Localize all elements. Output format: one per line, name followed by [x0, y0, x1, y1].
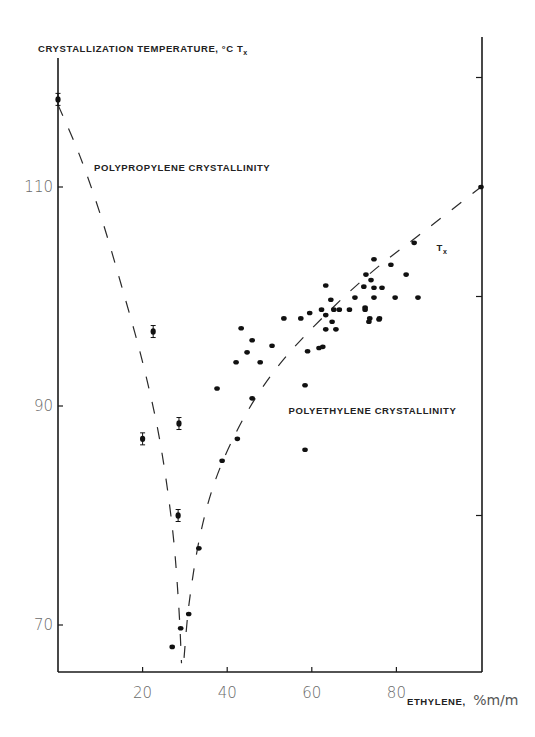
- x-axis-title-text: ETHYLENE,: [407, 696, 466, 707]
- y-axis-title: CRYSTALLIZATION TEMPERATURE, °C Tx: [38, 43, 248, 56]
- data-points: [55, 93, 483, 649]
- chart-annotation: POLYPROPYLENE CRYSTALLINITY: [94, 162, 270, 173]
- x-tick-label: 20: [133, 684, 152, 702]
- data-point: [323, 313, 329, 318]
- axes: [58, 37, 482, 672]
- data-point: [362, 305, 368, 310]
- data-point: [478, 185, 484, 190]
- data-point: [411, 241, 417, 246]
- data-point: [379, 285, 385, 290]
- data-point: [298, 316, 304, 321]
- data-point: [388, 262, 394, 267]
- data-point: [319, 307, 325, 312]
- data-point: [178, 626, 184, 631]
- data-point: [269, 343, 275, 348]
- data-point: [368, 278, 374, 283]
- x-tick-label: 80: [387, 684, 406, 702]
- data-point: [377, 316, 383, 321]
- data-point: [320, 345, 326, 350]
- data-point: [302, 383, 308, 388]
- data-point: [151, 328, 156, 334]
- annotations: POLYPROPYLENE CRYSTALLINITYPOLYETHYLENE …: [94, 162, 456, 416]
- data-point: [307, 311, 313, 316]
- dashed-trend-curve: [58, 105, 182, 663]
- data-point: [367, 316, 373, 321]
- data-point: [371, 257, 377, 262]
- y-tick-label: 110: [24, 178, 53, 196]
- data-point: [328, 297, 334, 302]
- y-tick-label: 90: [34, 397, 53, 415]
- x-axis-title: ETHYLENE, %m/m: [407, 691, 518, 708]
- y-axis-title-text: CRYSTALLIZATION TEMPERATURE, °C T: [38, 43, 243, 54]
- data-point: [361, 284, 367, 289]
- data-point: [323, 283, 329, 288]
- data-point: [371, 295, 377, 300]
- data-point: [186, 612, 192, 617]
- data-point: [281, 316, 287, 321]
- data-point: [244, 350, 250, 355]
- data-point: [331, 307, 337, 312]
- dashed-trend-curve: [184, 187, 481, 658]
- data-point: [233, 360, 239, 365]
- data-point: [219, 458, 225, 463]
- y-tick-label: 70: [34, 616, 53, 634]
- data-point: [235, 437, 241, 442]
- data-point: [302, 448, 308, 453]
- trend-curves: [58, 105, 481, 663]
- data-point: [336, 307, 342, 312]
- data-point: [214, 386, 220, 391]
- chart-annotation: POLYETHYLENE CRYSTALLINITY: [289, 405, 457, 416]
- x-tick-label: 40: [218, 684, 237, 702]
- data-point: [363, 272, 369, 277]
- data-point: [352, 295, 358, 300]
- chart-canvas: 204060807090110 POLYPROPYLENE CRYSTALLIN…: [0, 0, 535, 737]
- data-point: [196, 546, 202, 551]
- data-point: [176, 420, 181, 426]
- data-point: [323, 327, 329, 332]
- data-point: [415, 295, 421, 300]
- data-point: [176, 512, 181, 518]
- data-point: [333, 327, 339, 332]
- tick-labels: 204060807090110: [24, 178, 406, 702]
- x-tick-label: 60: [302, 684, 321, 702]
- data-point: [55, 96, 60, 102]
- chart-annotation: Tx: [437, 242, 448, 255]
- data-point: [403, 272, 409, 277]
- y-axis-title-subscript: x: [243, 49, 248, 56]
- data-point: [392, 295, 398, 300]
- data-point: [249, 338, 255, 343]
- data-point: [249, 396, 255, 401]
- data-point: [347, 307, 353, 312]
- data-point: [238, 326, 244, 331]
- data-point: [305, 349, 311, 354]
- data-point: [140, 436, 145, 442]
- data-point: [371, 285, 377, 290]
- data-point: [257, 360, 263, 365]
- data-point: [169, 645, 175, 650]
- x-axis-unit: %m/m: [473, 692, 518, 708]
- data-point: [329, 319, 335, 324]
